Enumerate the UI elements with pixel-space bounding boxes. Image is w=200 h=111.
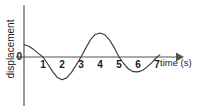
graph-canvas	[0, 0, 200, 111]
displacement-time-graph: 0 1 2 3 4 5 6 7 time (s) displacement	[0, 0, 200, 111]
x-tick-label-6: 6	[131, 60, 145, 70]
x-axis-title: time (s)	[160, 58, 192, 68]
x-tick-label-4: 4	[93, 60, 107, 70]
x-tick-label-1: 1	[36, 60, 50, 70]
y-axis-title: displacement	[6, 7, 16, 91]
x-tick-label-2: 2	[55, 60, 69, 70]
x-tick-label-3: 3	[74, 60, 88, 70]
x-tick-label-5: 5	[112, 60, 126, 70]
